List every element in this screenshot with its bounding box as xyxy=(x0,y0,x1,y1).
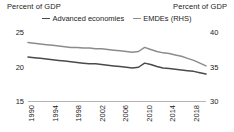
legend-item-emdes: EMDEs (RHS) xyxy=(133,14,191,23)
right-axis-title: Percent of GDP xyxy=(173,2,227,11)
legend-item-advanced-economies: Advanced economies xyxy=(42,14,124,23)
y-axis-tick-left-15: 15 xyxy=(8,98,24,106)
x-axis-tick-1990: 1990 xyxy=(28,105,36,122)
y-axis-tick-left-20: 20 xyxy=(8,64,24,72)
x-axis-tick-2002: 2002 xyxy=(99,105,107,122)
y-axis-tick-right-35: 35 xyxy=(210,64,226,72)
x-axis-tick-1994: 1994 xyxy=(52,105,60,122)
x-axis-tick-2014: 2014 xyxy=(169,105,177,122)
y-axis-tick-left-25: 25 xyxy=(8,29,24,37)
legend-swatch-line-icon xyxy=(42,18,50,19)
left-axis-title: Percent of GDP xyxy=(7,2,61,11)
x-axis-tick-2006: 2006 xyxy=(122,105,130,122)
y-axis-tick-right-40: 40 xyxy=(210,29,226,37)
chart-figure: Percent of GDP Percent of GDP Advanced e… xyxy=(0,0,234,132)
x-axis-tick-1998: 1998 xyxy=(75,105,83,122)
x-axis-tick-2018: 2018 xyxy=(193,105,201,122)
y-axis-tick-right-30: 30 xyxy=(210,98,226,106)
series-line-advanced-economies xyxy=(28,57,206,74)
legend-label: EMDEs (RHS) xyxy=(143,14,191,23)
legend-label: Advanced economies xyxy=(52,14,124,23)
chart-legend: Advanced economies EMDEs (RHS) xyxy=(0,14,234,23)
x-axis-tick-2010: 2010 xyxy=(146,105,154,122)
legend-swatch-line-icon xyxy=(133,18,141,19)
series-line-emdes xyxy=(28,43,206,66)
